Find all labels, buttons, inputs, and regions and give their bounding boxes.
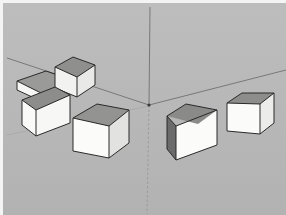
box-6-far-right-cube[interactable] bbox=[227, 93, 274, 134]
app-root: 3D Modeling Viewport Perspective Shaded … bbox=[0, 0, 286, 215]
origin-point-icon[interactable] bbox=[147, 103, 150, 106]
3d-scene-canvas[interactable] bbox=[3, 3, 286, 215]
box-6-face-front bbox=[227, 103, 260, 134]
modeling-viewport[interactable] bbox=[0, 0, 286, 215]
